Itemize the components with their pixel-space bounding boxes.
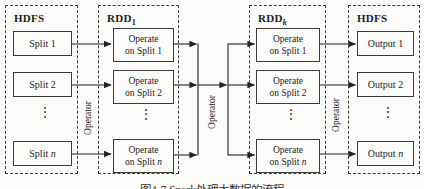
hdfs-input-ellipsis: ⋮ [38, 106, 52, 120]
rddk-ellipsis: ⋮ [284, 108, 298, 122]
output-n-box: Output n [357, 141, 414, 166]
rddk-operate-n-box: Operateon Split n [256, 139, 320, 173]
output-1-box: Output 1 [357, 31, 414, 56]
output-2-box: Output 2 [357, 72, 414, 97]
rdd1-ellipsis: ⋮ [139, 108, 153, 122]
rdd1-title: RDD1 [107, 12, 136, 27]
figure-caption: 图4-7 Spark处理大数据的流程 [0, 181, 424, 189]
rdd1-operate-2-box: Operateon Split 2 [113, 70, 174, 104]
rddk-operate-1-box: Operateon Split 1 [256, 28, 320, 62]
split-n-box: Split n [13, 141, 72, 166]
rddk-operate-2-box: Operateon Split 2 [256, 70, 320, 104]
split-2-box: Split 2 [13, 72, 72, 97]
hdfs-output-title: HDFS [357, 12, 388, 24]
split-1-box: Split 1 [13, 31, 72, 56]
operator-label-middle: Operator [207, 90, 219, 134]
rdd1-operate-1-box: Operateon Split 1 [113, 28, 174, 62]
hdfs-input-title: HDFS [14, 12, 45, 24]
operator-label-right: Operator [331, 93, 343, 137]
hdfs-output-ellipsis: ⋮ [381, 106, 395, 120]
figure-canvas: HDFS RDD1 RDDk HDFS Split 1 Split 2 ⋮ Sp… [0, 0, 424, 189]
operator-label-left: Operator [83, 96, 95, 140]
rddk-title: RDDk [258, 12, 287, 27]
rdd1-operate-n-box: Operateon Split n [113, 139, 174, 173]
